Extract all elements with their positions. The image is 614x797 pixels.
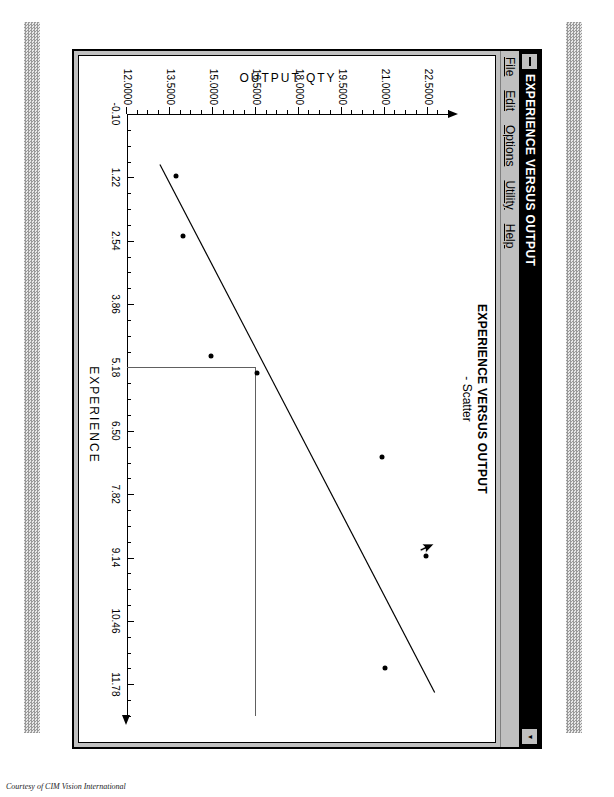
x-tick	[127, 620, 134, 621]
credit-caption: Courtesy of CIM Vision International	[6, 782, 126, 791]
y-tick	[212, 107, 213, 114]
x-tick-label: 1.22	[110, 167, 121, 186]
y-minor-tick	[223, 110, 224, 114]
x-minor-tick	[127, 288, 131, 289]
y-minor-tick	[158, 110, 159, 114]
minimize-button[interactable]: ▾	[522, 728, 539, 745]
chart-client-area[interactable]: EXPERIENCE VERSUS OUTPUT - Scatter EXPER…	[78, 55, 496, 743]
y-minor-tick	[244, 110, 245, 114]
system-menu-icon[interactable]	[522, 53, 539, 70]
y-tick	[255, 107, 256, 114]
x-tick	[127, 494, 134, 495]
y-tick-label: 22.5000	[422, 68, 433, 104]
plot-area[interactable]: EXPERIENCE OUTPUT QTY -0.101.222.543.865…	[127, 114, 449, 716]
y-tick	[298, 107, 299, 114]
system-menu-glyph	[529, 57, 531, 66]
y-tick-label: 19.5000	[336, 68, 347, 104]
x-minor-tick	[127, 193, 131, 194]
y-minor-tick	[287, 110, 288, 114]
x-minor-tick	[127, 605, 131, 606]
menu-item-edit[interactable]: Edit	[503, 90, 517, 111]
x-minor-tick	[127, 335, 131, 336]
data-point	[173, 173, 178, 178]
x-minor-tick	[127, 525, 131, 526]
x-minor-tick	[127, 224, 131, 225]
y-minor-tick	[137, 110, 138, 114]
data-point	[255, 370, 260, 375]
x-minor-tick	[127, 129, 131, 130]
menu-item-options[interactable]: Options	[503, 125, 517, 166]
x-minor-tick	[127, 272, 131, 273]
page-edge-right	[566, 22, 582, 733]
x-tick	[127, 114, 134, 115]
y-tick-label: 13.5000	[164, 68, 175, 104]
y-minor-tick	[276, 110, 277, 114]
x-minor-tick	[127, 462, 131, 463]
x-tick-label: 10.46	[110, 608, 121, 633]
y-tick	[126, 107, 127, 114]
x-minor-tick	[127, 256, 131, 257]
x-axis-title: EXPERIENCE	[87, 114, 101, 716]
menu-item-help[interactable]: Help	[503, 223, 517, 248]
chart-title-line1: EXPERIENCE VERSUS OUTPUT	[474, 56, 489, 742]
menu-bar: File Edit Options Utility Help	[500, 51, 519, 747]
y-tick-label: 12.0000	[122, 68, 133, 104]
menu-item-help-label: Help	[503, 223, 517, 248]
window-title: EXPERIENCE VERSUS OUTPUT	[523, 74, 537, 724]
chart-title: EXPERIENCE VERSUS OUTPUT - Scatter	[459, 56, 489, 742]
x-minor-tick	[127, 589, 131, 590]
rotated-screenshot-stage: EXPERIENCE VERSUS OUTPUT ▾ File Edit Opt…	[72, 49, 542, 749]
x-minor-tick	[127, 510, 131, 511]
mouse-cursor-icon	[418, 543, 434, 555]
application-window: EXPERIENCE VERSUS OUTPUT ▾ File Edit Opt…	[72, 49, 542, 749]
menu-item-options-label: Options	[503, 125, 517, 166]
y-minor-tick	[233, 110, 234, 114]
y-tick	[341, 107, 342, 114]
menu-item-file-label: File	[503, 57, 517, 76]
y-minor-tick	[330, 110, 331, 114]
x-tick-label: 3.86	[110, 294, 121, 313]
crosshair-vertical	[127, 367, 256, 368]
x-minor-tick	[127, 700, 131, 701]
y-tick-label: 16.5000	[250, 68, 261, 104]
data-point	[382, 665, 387, 670]
x-minor-tick	[127, 399, 131, 400]
y-tick	[169, 107, 170, 114]
x-tick	[127, 684, 134, 685]
x-minor-tick	[127, 319, 131, 320]
x-minor-tick	[127, 478, 131, 479]
y-minor-tick	[448, 110, 449, 114]
x-tick-label: 11.78	[110, 672, 121, 696]
y-minor-tick	[351, 110, 352, 114]
x-tick	[127, 177, 134, 178]
y-minor-tick	[308, 110, 309, 114]
x-tick	[127, 557, 134, 558]
y-minor-tick	[190, 110, 191, 114]
menu-item-utility-label: Utility	[503, 180, 517, 209]
x-minor-tick	[127, 415, 131, 416]
y-minor-tick	[180, 110, 181, 114]
y-minor-tick	[405, 110, 406, 114]
x-minor-tick	[127, 209, 131, 210]
chart-title-line2: - Scatter	[459, 56, 474, 742]
x-tick	[127, 304, 134, 305]
crosshair-horizontal	[255, 367, 256, 716]
page-edge-left	[24, 22, 40, 733]
x-minor-tick	[127, 446, 131, 447]
menu-item-edit-label: Edit	[503, 90, 517, 111]
menu-item-file[interactable]: File	[503, 57, 517, 76]
x-tick	[127, 240, 134, 241]
x-tick-label: -0.10	[110, 102, 121, 125]
y-minor-tick	[362, 110, 363, 114]
x-minor-tick	[127, 541, 131, 542]
x-tick-label: 2.54	[110, 231, 121, 250]
menu-item-utility[interactable]: Utility	[503, 180, 517, 209]
y-axis-arrow-icon	[448, 110, 458, 118]
y-minor-tick	[147, 110, 148, 114]
window-buttons: ▾	[522, 728, 539, 745]
x-minor-tick	[127, 636, 131, 637]
y-minor-tick	[201, 110, 202, 114]
y-minor-tick	[266, 110, 267, 114]
x-minor-tick	[127, 145, 131, 146]
regression-line	[127, 114, 449, 716]
